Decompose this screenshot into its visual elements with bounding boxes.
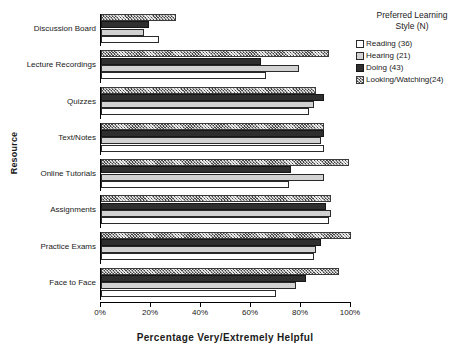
bar bbox=[101, 217, 329, 224]
bar bbox=[101, 108, 309, 115]
bar bbox=[101, 123, 324, 130]
bar-group bbox=[100, 232, 351, 264]
bar-group bbox=[100, 87, 351, 119]
bar bbox=[101, 87, 316, 94]
bar bbox=[101, 130, 324, 137]
plot-area bbox=[100, 12, 350, 302]
bar bbox=[101, 94, 324, 101]
legend-swatch-icon bbox=[356, 64, 364, 72]
legend: Preferred Learning Style (N) Reading (36… bbox=[356, 10, 468, 86]
bar bbox=[101, 275, 306, 282]
legend-item-label: Reading (36) bbox=[366, 38, 412, 49]
bar bbox=[101, 137, 321, 144]
bar-group bbox=[100, 159, 351, 191]
x-axis-tick bbox=[350, 302, 351, 307]
x-axis-tick-label: 60% bbox=[230, 308, 270, 317]
bar bbox=[101, 290, 276, 297]
bar bbox=[101, 50, 329, 57]
x-axis-tick-label: 100% bbox=[330, 308, 370, 317]
y-axis-tick-label: Discussion Board bbox=[0, 24, 96, 33]
bar bbox=[101, 268, 339, 275]
legend-item: Hearing (21) bbox=[356, 50, 468, 61]
bar-groups bbox=[100, 12, 350, 302]
bar bbox=[101, 145, 324, 152]
bar-group bbox=[100, 50, 351, 82]
bar bbox=[101, 72, 266, 79]
legend-title-line-2: Style (N) bbox=[356, 21, 468, 32]
y-axis-tick-label: Assignments bbox=[0, 205, 96, 214]
y-axis-tick-label: Practice Exams bbox=[0, 242, 96, 251]
bar bbox=[101, 65, 299, 72]
bar bbox=[101, 203, 326, 210]
x-axis-title: Percentage Very/Extremely Helpful bbox=[100, 332, 350, 343]
legend-title: Preferred Learning Style (N) bbox=[356, 10, 468, 32]
legend-swatch-icon bbox=[356, 40, 364, 48]
bar-group bbox=[100, 14, 351, 46]
bar bbox=[101, 159, 349, 166]
y-axis-tick-label: Quizzes bbox=[0, 97, 96, 106]
x-axis-tick bbox=[250, 302, 251, 307]
x-axis-tick-label: 0% bbox=[80, 308, 120, 317]
y-axis-tick-label: Face to Face bbox=[0, 278, 96, 287]
x-axis-tick-label: 20% bbox=[130, 308, 170, 317]
bar bbox=[101, 195, 331, 202]
legend-item: Reading (36) bbox=[356, 38, 468, 49]
legend-item-label: Hearing (21) bbox=[366, 50, 410, 61]
x-axis-tick bbox=[200, 302, 201, 307]
legend-item-label: Looking/Watching(24) bbox=[366, 74, 444, 85]
y-axis-tick-labels: Discussion BoardLecture RecordingsQuizze… bbox=[0, 12, 96, 302]
bar bbox=[101, 181, 289, 188]
x-axis-tick bbox=[100, 302, 101, 307]
bar bbox=[101, 210, 331, 217]
bar-group bbox=[100, 195, 351, 227]
x-axis-tick-label: 40% bbox=[180, 308, 220, 317]
chart-figure: Resource Discussion BoardLecture Recordi… bbox=[0, 0, 469, 358]
bar bbox=[101, 253, 314, 260]
x-axis-line bbox=[100, 302, 350, 303]
legend-swatch-icon bbox=[356, 52, 364, 60]
bar bbox=[101, 174, 324, 181]
legend-item-label: Doing (43) bbox=[366, 62, 403, 73]
legend-item: Looking/Watching(24) bbox=[356, 74, 468, 85]
bar bbox=[101, 21, 149, 28]
legend-item: Doing (43) bbox=[356, 62, 468, 73]
bar bbox=[101, 29, 144, 36]
bar bbox=[101, 239, 321, 246]
x-axis-tick-label: 80% bbox=[280, 308, 320, 317]
x-axis-tick bbox=[150, 302, 151, 307]
y-axis-tick-label: Text/Notes bbox=[0, 133, 96, 142]
y-axis-tick-label: Online Tutorials bbox=[0, 169, 96, 178]
bar bbox=[101, 101, 314, 108]
bar bbox=[101, 14, 176, 21]
legend-swatch-icon bbox=[356, 76, 364, 84]
bar bbox=[101, 166, 291, 173]
x-axis-tick bbox=[300, 302, 301, 307]
bar bbox=[101, 58, 261, 65]
bar-group bbox=[100, 123, 351, 155]
bar bbox=[101, 36, 159, 43]
y-axis-tick-label: Lecture Recordings bbox=[0, 60, 96, 69]
bar bbox=[101, 282, 296, 289]
legend-title-line-1: Preferred Learning bbox=[356, 10, 468, 21]
legend-items: Reading (36)Hearing (21)Doing (43)Lookin… bbox=[356, 38, 468, 85]
bar bbox=[101, 246, 316, 253]
bar bbox=[101, 232, 351, 239]
bar-group bbox=[100, 268, 351, 300]
